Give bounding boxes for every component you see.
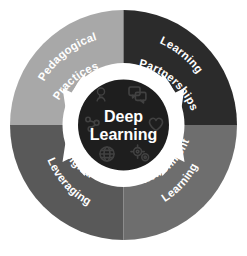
center-title-line1: Deep [104, 108, 143, 125]
center-title-line2: Learning [90, 126, 158, 143]
four-quadrant-wheel: Pedagogical Practices Learning Partnersh… [0, 0, 247, 256]
center-disc[interactable] [78, 80, 169, 171]
deep-learning-diagram: Pedagogical Practices Learning Partnersh… [0, 0, 247, 256]
